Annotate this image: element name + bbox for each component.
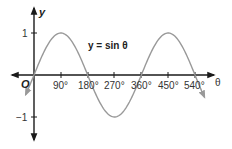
x-tick-label-90: 90° <box>53 80 68 91</box>
x-tick-label-540: 540° <box>184 80 205 91</box>
x-axis-label: θ <box>215 77 221 88</box>
x-tick-label-270: 270° <box>104 80 125 91</box>
origin-label: O <box>21 78 30 90</box>
equation-label: y = sin θ <box>88 40 128 51</box>
x-tick-label-450: 450° <box>158 80 179 91</box>
y-axis-label: y <box>38 6 46 18</box>
y-tick-label-1: 1 <box>22 28 28 39</box>
x-tick-label-180: 180° <box>78 80 99 91</box>
x-tick-label-360: 360° <box>131 80 152 91</box>
sine-graph: y θ O 1 −1 90° 180° 270° 360° 450° 540° … <box>0 0 232 149</box>
y-tick-label-neg1: −1 <box>16 112 28 123</box>
